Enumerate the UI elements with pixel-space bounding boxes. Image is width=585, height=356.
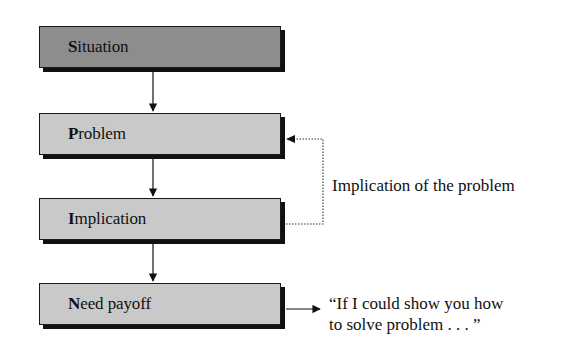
node-problem: Problem — [39, 113, 281, 155]
node-implication: Implication — [39, 198, 281, 240]
quote-line-2: to solve problem . . . ” — [329, 314, 503, 335]
node-need-payoff: Need payoff — [39, 283, 281, 325]
feedback-label: Implication of the problem — [332, 175, 515, 196]
node-situation: Situation — [39, 26, 281, 68]
dotted-feedback-loop — [286, 139, 323, 224]
quote-text: “If I could show you how to solve proble… — [329, 293, 503, 335]
quote-line-1: “If I could show you how — [329, 293, 503, 314]
node-label: Implication — [68, 209, 146, 229]
feedback-arrowhead-icon — [286, 135, 295, 143]
node-label: Situation — [68, 37, 129, 57]
node-label: Problem — [68, 124, 126, 144]
node-label: Need payoff — [68, 294, 151, 314]
